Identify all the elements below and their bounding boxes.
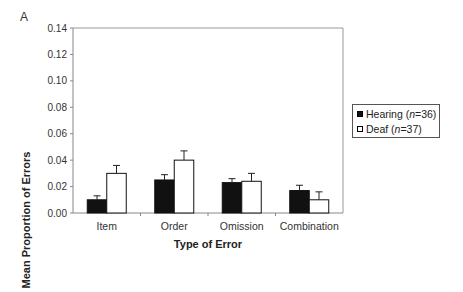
y-tick-label: 0.10	[48, 75, 68, 86]
y-axis-title: Mean Proportion of Errors	[20, 120, 34, 292]
black-square-swatch-icon	[357, 111, 363, 117]
y-tick-label: 0.14	[48, 23, 68, 34]
bar-deaf	[107, 173, 127, 213]
legend-label-hearing: Hearing (n=36)	[366, 108, 436, 120]
y-tick-label: 0.06	[48, 128, 68, 139]
bar-hearing	[222, 183, 242, 213]
chart-bars	[87, 151, 329, 213]
y-tick-label: 0.02	[48, 181, 68, 192]
chart-legend: Hearing (n=36) Deaf (n=37)	[352, 104, 440, 138]
x-axis-title: Type of Error	[73, 238, 343, 250]
y-tick-label: 0.04	[48, 155, 68, 166]
x-tick-label: Combination	[280, 220, 339, 232]
x-tick-label: Order	[161, 220, 188, 232]
bar-deaf	[174, 160, 194, 213]
panel-label: A	[20, 10, 28, 24]
x-tick-label: Item	[97, 220, 118, 232]
bar-hearing	[290, 191, 310, 213]
legend-item-deaf: Deaf (n=37)	[357, 123, 422, 135]
y-tick-label: 0.00	[48, 208, 68, 219]
bar-hearing	[87, 200, 107, 213]
bar-deaf	[309, 200, 329, 213]
y-tick-label: 0.12	[48, 49, 68, 60]
bar-deaf	[242, 181, 262, 213]
white-square-swatch-icon	[357, 126, 363, 132]
y-tick-label: 0.08	[48, 102, 68, 113]
bar-hearing	[155, 180, 175, 213]
legend-label-deaf: Deaf (n=37)	[366, 123, 422, 135]
legend-item-hearing: Hearing (n=36)	[357, 108, 436, 120]
x-tick-label: Omission	[220, 220, 264, 232]
